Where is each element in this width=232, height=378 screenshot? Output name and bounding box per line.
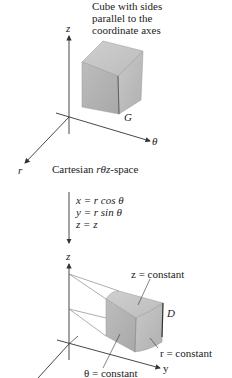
x-axis-back [69,336,78,344]
theta-axis-label: θ [152,135,158,147]
equation-z: z = z [75,218,98,230]
r-axis-label: r [18,164,23,176]
theta-axis [56,113,150,141]
caption-cartesian-space: Cartesian rθz-space [52,163,138,175]
cube-G [82,41,143,114]
region-label-D: D [166,307,175,319]
z-axis-label-top: z [65,22,71,34]
top-annotation: Cube with sides parallel to the coordina… [92,0,162,36]
transform-equations: x = r cos θ y = r sin θ z = z [75,194,124,230]
label-theta-constant: θ = constant [84,367,138,378]
annotation-line-3: coordinate axes [92,24,161,36]
cylindrical-coordinates-diagram: Cube with sides parallel to the coordina… [0,0,232,378]
label-r-constant: r = constant [160,347,212,359]
solid-D [106,291,163,352]
equation-y: y = r sin θ [75,206,122,218]
y-axis-label: y [163,362,169,374]
annotation-line-2: parallel to the [92,12,153,24]
label-z-constant: z = constant [131,268,184,280]
x-axis [38,344,69,378]
region-label-G: G [124,111,132,123]
equation-x: x = r cos θ [75,194,124,206]
annotation-line-1: Cube with sides [92,0,162,12]
z-axis-label-bottom: z [65,250,71,262]
r-axis [25,117,69,163]
